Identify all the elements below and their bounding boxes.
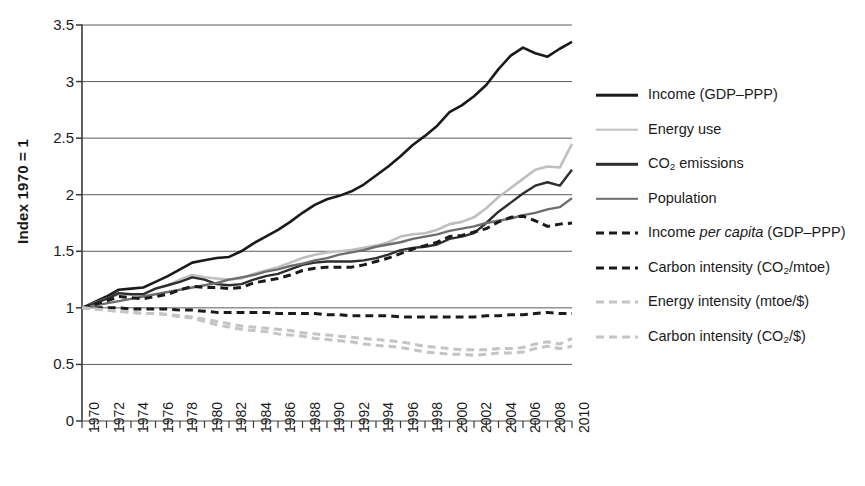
legend-swatch-icon [596, 296, 638, 308]
legend-swatch-icon [596, 158, 638, 170]
legend-item[interactable]: Income (GDP–PPP) [596, 78, 862, 113]
x-tick-label: 1976 [161, 402, 175, 433]
x-tick-label: 1972 [112, 402, 126, 433]
legend-swatch-icon [596, 193, 638, 205]
x-tick-label: 1992 [357, 402, 371, 433]
x-tick-label: 1978 [185, 402, 199, 433]
x-tick-label: 1986 [283, 402, 297, 433]
legend-label: CO2 emissions [648, 156, 744, 172]
x-tick-label: 1994 [381, 402, 395, 433]
legend-swatch-icon [596, 262, 638, 274]
x-tick-label: 1970 [87, 402, 101, 433]
legend-label: Income per capita (GDP–PPP) [648, 225, 845, 241]
legend-item[interactable]: Energy intensity (mtoe/$) [596, 285, 862, 320]
x-tick-label: 1980 [210, 402, 224, 433]
x-tick-label: 2006 [528, 402, 542, 433]
legend-swatch-icon [596, 124, 638, 136]
x-tick-label: 1982 [234, 402, 248, 433]
legend-swatch-icon [596, 227, 638, 239]
x-tick-label: 2002 [479, 402, 493, 433]
legend-swatch-icon [596, 89, 638, 101]
legend-label: Population [648, 191, 717, 207]
x-tick-label: 1974 [136, 402, 150, 433]
x-tick-label: 1990 [332, 402, 346, 433]
chart-legend: Income (GDP–PPP)Energy useCO2 emissionsP… [596, 78, 862, 354]
x-tick-label: 2000 [455, 402, 469, 433]
legend-swatch-icon [596, 331, 638, 343]
legend-item[interactable]: Income per capita (GDP–PPP) [596, 216, 862, 251]
x-tick-label: 2008 [553, 402, 567, 433]
legend-label: Energy use [648, 122, 721, 138]
x-tick-label: 1996 [406, 402, 420, 433]
legend-item[interactable]: Carbon intensity (CO2/$) [596, 320, 862, 355]
x-tick-label: 1998 [430, 402, 444, 433]
legend-label: Carbon intensity (CO2/$) [648, 329, 806, 345]
chart-figure: Index 1970 = 1 3.532.521.510.50 19701972… [0, 0, 865, 486]
legend-label: Energy intensity (mtoe/$) [648, 294, 809, 310]
legend-label: Income (GDP–PPP) [648, 87, 778, 103]
legend-item[interactable]: Population [596, 182, 862, 217]
x-tick-label: 1988 [308, 402, 322, 433]
legend-label: Carbon intensity (CO2/mtoe) [648, 260, 830, 276]
legend-item[interactable]: CO2 emissions [596, 147, 862, 182]
x-tick-label: 2004 [504, 402, 518, 433]
x-tick-label: 1984 [259, 402, 273, 433]
x-tick-label: 2010 [577, 402, 591, 433]
legend-item[interactable]: Energy use [596, 113, 862, 148]
legend-item[interactable]: Carbon intensity (CO2/mtoe) [596, 251, 862, 286]
